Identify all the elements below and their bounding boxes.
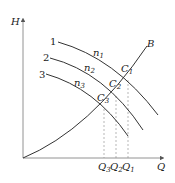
- speed-label-n3: n3: [74, 77, 85, 90]
- pump-curve-diagram: H Q B 1 2 3 n1 n2 n3 C1 C2 C3 Q3 Q2 Q1: [0, 0, 175, 183]
- operating-point-c2: C2: [109, 78, 122, 91]
- curve-number-1: 1: [50, 36, 56, 47]
- curve-number-3: 3: [39, 69, 45, 80]
- y-axis-label: H: [10, 16, 20, 27]
- flow-label-q1: Q1: [122, 161, 135, 174]
- curve-number-2: 2: [43, 52, 49, 63]
- system-curve-label: B: [146, 38, 154, 49]
- x-axis-label: Q: [157, 161, 165, 172]
- speed-label-n1: n1: [93, 47, 104, 60]
